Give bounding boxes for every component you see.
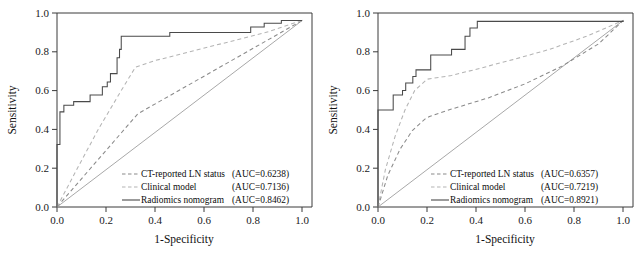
legend-auc-clinical-model: (AUC=0.7136) — [232, 182, 289, 193]
x-tick-label-5: 1.0 — [616, 214, 630, 226]
x-ticks-left — [57, 207, 302, 212]
y-tick-label-0: 0.0 — [356, 201, 370, 213]
x-ticks-right — [378, 207, 623, 212]
roc-plot-left: 0.0 0.2 0.4 0.6 0.8 1.0 0.0 0.2 0.4 0.6 … — [0, 0, 321, 264]
x-tick-label-4: 0.8 — [567, 214, 581, 226]
y-tick-label-4: 0.8 — [35, 45, 49, 57]
y-tick-label-4: 0.8 — [356, 45, 370, 57]
legend-label-clinical-model: Clinical model — [450, 182, 506, 192]
x-axis-title: 1-Specificity — [154, 233, 214, 246]
roc-plot-right: 0.0 0.2 0.4 0.6 0.8 1.0 0.0 0.2 0.4 0.6 … — [321, 0, 642, 264]
legend-label-clinical-model: Clinical model — [141, 182, 197, 192]
y-tick-label-1: 0.2 — [35, 162, 49, 174]
legend-left: CT-reported LN status Clinical model Rad… — [122, 169, 289, 206]
y-ticks-right — [373, 13, 378, 207]
legend-auc-clinical-model: (AUC=0.7219) — [541, 182, 598, 193]
legend-auc-ct-reported: (AUC=0.6357) — [541, 169, 598, 180]
y-axis-title: Sensitivity — [327, 85, 340, 134]
y-tick-label-3: 0.6 — [356, 84, 370, 96]
x-tick-label-3: 0.6 — [197, 214, 211, 226]
y-tick-label-1: 0.2 — [356, 162, 370, 174]
x-tick-label-2: 0.4 — [148, 214, 162, 226]
y-axis-title: Sensitivity — [6, 85, 19, 134]
legend-label-ct-reported: CT-reported LN status — [141, 169, 225, 179]
x-tick-label-1: 0.2 — [420, 214, 434, 226]
y-tick-label-2: 0.4 — [356, 123, 370, 135]
x-tick-label-3: 0.6 — [518, 214, 532, 226]
legend-auc-radiomics-nomogram: (AUC=0.8921) — [541, 195, 598, 206]
y-tick-label-5: 1.0 — [356, 7, 370, 19]
roc-panel-right: 0.0 0.2 0.4 0.6 0.8 1.0 0.0 0.2 0.4 0.6 … — [321, 0, 642, 264]
y-tick-label-2: 0.4 — [35, 123, 49, 135]
legend-auc-radiomics-nomogram: (AUC=0.8462) — [232, 195, 289, 206]
x-tick-label-5: 1.0 — [295, 214, 309, 226]
x-tick-label-2: 0.4 — [469, 214, 483, 226]
y-tick-label-3: 0.6 — [35, 84, 49, 96]
legend-label-ct-reported: CT-reported LN status — [450, 169, 534, 179]
x-tick-label-1: 0.2 — [99, 214, 113, 226]
legend-label-radiomics-nomogram: Radiomics nomogram — [450, 195, 534, 205]
roc-panel-left: 0.0 0.2 0.4 0.6 0.8 1.0 0.0 0.2 0.4 0.6 … — [0, 0, 321, 264]
y-tick-label-0: 0.0 — [35, 201, 49, 213]
x-axis-title: 1-Specificity — [475, 233, 535, 246]
roc-figure: 0.0 0.2 0.4 0.6 0.8 1.0 0.0 0.2 0.4 0.6 … — [0, 0, 642, 264]
legend-auc-ct-reported: (AUC=0.6238) — [232, 169, 289, 180]
legend-label-radiomics-nomogram: Radiomics nomogram — [141, 195, 225, 205]
x-tick-label-0: 0.0 — [371, 214, 385, 226]
y-ticks-left — [52, 13, 57, 207]
x-tick-label-0: 0.0 — [50, 214, 64, 226]
x-tick-label-4: 0.8 — [246, 214, 260, 226]
y-tick-label-5: 1.0 — [35, 7, 49, 19]
legend-right: CT-reported LN status Clinical model Rad… — [431, 169, 598, 206]
